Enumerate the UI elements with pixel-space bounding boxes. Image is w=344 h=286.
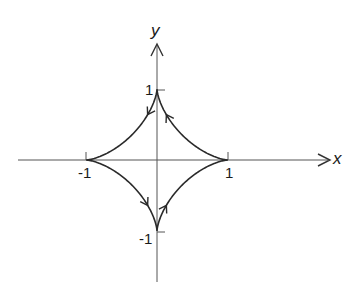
tick-label-x-neg: -1	[78, 165, 91, 180]
y-axis-label: y	[151, 22, 160, 39]
tick-label-x-pos: 1	[225, 165, 233, 180]
x-axis-label: x	[333, 150, 342, 167]
tick-label-y-pos: 1	[145, 82, 153, 97]
astroid-diagram	[0, 0, 344, 286]
tick-label-y-neg: -1	[139, 231, 152, 246]
